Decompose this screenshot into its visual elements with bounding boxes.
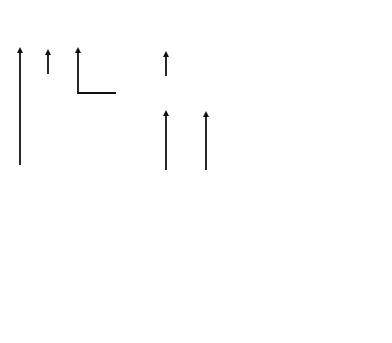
arrow-right-to-usai-line [229,39,260,178]
connector-layer [0,0,392,343]
arrow-intermediaries-to-chinese [78,50,116,93]
